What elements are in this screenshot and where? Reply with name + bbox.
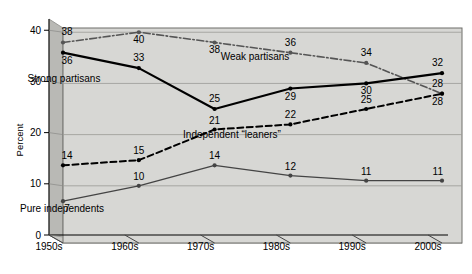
- partisanship-line-chart: 010203040 1950s1960s1970s1980s1990s2000s…: [0, 0, 472, 274]
- point-label: 10: [133, 171, 145, 182]
- point-label: 40: [133, 34, 145, 45]
- x-tick-label: 1990s: [339, 241, 366, 252]
- data-point: [213, 163, 217, 167]
- y-tick-label: 20: [30, 127, 42, 138]
- point-label: 36: [61, 55, 73, 66]
- x-tick-label: 2000s: [414, 241, 441, 252]
- x-tick-label: 1960s: [111, 241, 138, 252]
- point-label: 25: [361, 94, 373, 105]
- data-point: [288, 173, 292, 177]
- data-point: [440, 179, 444, 183]
- point-label: 11: [361, 166, 372, 177]
- point-label: 28: [432, 78, 444, 89]
- point-label: 15: [133, 145, 145, 156]
- point-label: 14: [209, 150, 221, 161]
- point-label: 14: [61, 150, 73, 161]
- data-point: [364, 61, 368, 65]
- data-point: [364, 179, 368, 183]
- y-tick-label: 40: [30, 25, 42, 36]
- data-point: [213, 107, 217, 111]
- y-axis-title: Percent: [14, 123, 25, 156]
- data-point: [61, 163, 65, 167]
- series-annotation: Pure independents: [20, 203, 104, 214]
- point-label: 38: [61, 26, 73, 37]
- series-annotation: Weak partisans: [221, 51, 290, 62]
- chart-container: 010203040 1950s1960s1970s1980s1990s2000s…: [0, 0, 472, 274]
- x-tick-label: 1950s: [35, 241, 62, 252]
- point-label: 33: [133, 52, 145, 63]
- data-point: [440, 71, 444, 75]
- data-point: [364, 107, 368, 111]
- series-annotation: Independent “leaners”: [183, 129, 281, 140]
- point-label: 11: [433, 166, 444, 177]
- point-label: 29: [285, 91, 297, 102]
- data-point: [61, 40, 65, 44]
- y-tick-label: 0: [35, 230, 41, 241]
- point-label: 38: [209, 44, 221, 55]
- point-label: 32: [432, 57, 444, 68]
- series-annotation: Strong partisans: [28, 73, 101, 84]
- data-point: [137, 158, 141, 162]
- point-label: 34: [361, 47, 373, 58]
- x-tick-label: 1970s: [187, 241, 214, 252]
- x-tick-label: 1980s: [263, 241, 290, 252]
- point-label: 22: [285, 109, 297, 120]
- point-label: 36: [285, 37, 297, 48]
- point-label: 28: [432, 96, 444, 107]
- point-label: 25: [209, 93, 221, 104]
- data-point: [288, 122, 292, 126]
- data-point: [137, 184, 141, 188]
- y-tick-label: 10: [30, 178, 42, 189]
- point-label: 12: [285, 161, 297, 172]
- point-label: 21: [209, 115, 221, 126]
- data-point: [137, 66, 141, 70]
